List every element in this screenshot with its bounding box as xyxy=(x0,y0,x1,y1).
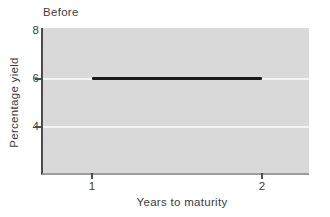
yield-curve-figure: Before Percentage yield Years to maturit… xyxy=(0,0,330,217)
x-tick xyxy=(261,173,263,179)
x-axis-title: Years to maturity xyxy=(49,196,315,208)
x-tick-label: 2 xyxy=(247,180,277,193)
x-tick-label: 1 xyxy=(77,180,107,193)
y-tick xyxy=(35,78,41,80)
flat-yield-curve-line xyxy=(92,77,262,80)
y-gridline xyxy=(43,126,309,128)
chart-title: Before xyxy=(43,6,79,18)
y-tick-label: 8 xyxy=(18,24,39,37)
y-tick xyxy=(35,126,41,128)
x-tick xyxy=(91,173,93,179)
plot-area xyxy=(41,28,309,175)
y-axis-title: Percentage yield xyxy=(8,49,21,157)
